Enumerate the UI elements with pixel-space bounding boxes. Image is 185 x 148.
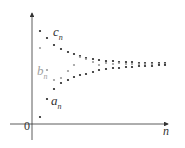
- point-a-n: [53, 88, 55, 90]
- point-c-n: [60, 48, 62, 50]
- point-a-n: [98, 69, 100, 71]
- point-b-n: [53, 79, 55, 81]
- point-a-n: [164, 64, 166, 66]
- point-a-n: [151, 65, 153, 67]
- point-a-n: [73, 76, 75, 78]
- point-c-n: [105, 60, 107, 62]
- point-c-n: [46, 37, 48, 39]
- point-b-n: [73, 64, 75, 66]
- point-a-n: [67, 79, 69, 81]
- point-b-n: [79, 56, 81, 58]
- point-a-n: [112, 67, 114, 69]
- origin-label: 0: [24, 119, 30, 134]
- point-a-n: [105, 68, 107, 70]
- point-b-n: [85, 58, 87, 60]
- point-b-n: [105, 62, 107, 64]
- point-a-n: [131, 66, 133, 68]
- point-b-n: [144, 63, 146, 65]
- point-b-n: [98, 64, 100, 66]
- b-n-label-sub: n: [44, 72, 48, 81]
- point-a-n: [85, 73, 87, 75]
- point-a-n: [144, 65, 146, 67]
- point-a-n: [158, 64, 160, 66]
- point-b-n: [131, 63, 133, 65]
- point-c-n: [53, 44, 55, 46]
- point-b-n: [118, 62, 120, 64]
- point-c-n: [67, 51, 69, 53]
- a-n-label-sub: n: [58, 102, 62, 111]
- point-a-n: [79, 74, 81, 76]
- point-a-n: [60, 82, 62, 84]
- point-c-n: [98, 59, 100, 61]
- point-c-n: [39, 30, 41, 32]
- point-c-n: [131, 61, 133, 63]
- point-b-n: [67, 70, 69, 72]
- point-b-n: [39, 47, 41, 49]
- point-a-n: [118, 67, 120, 69]
- point-b-n: [138, 63, 140, 65]
- point-b-n: [60, 77, 62, 79]
- point-a-n: [46, 98, 48, 100]
- x-axis-label: n: [163, 124, 169, 139]
- point-b-n: [112, 63, 114, 65]
- point-c-n: [125, 61, 127, 63]
- point-a-n: [125, 66, 127, 68]
- a-n-label: an: [51, 93, 62, 111]
- point-b-n: [92, 61, 94, 63]
- point-a-n: [138, 65, 140, 67]
- c-n-label: cn: [53, 24, 63, 42]
- point-c-n: [92, 58, 94, 60]
- point-b-n: [151, 63, 153, 65]
- point-c-n: [73, 53, 75, 55]
- point-a-n: [39, 116, 41, 118]
- point-b-n: [125, 63, 127, 65]
- c-n-label-sub: n: [59, 33, 63, 42]
- point-a-n: [92, 71, 94, 73]
- point-c-n: [112, 60, 114, 62]
- b-n-label: bn: [37, 63, 48, 81]
